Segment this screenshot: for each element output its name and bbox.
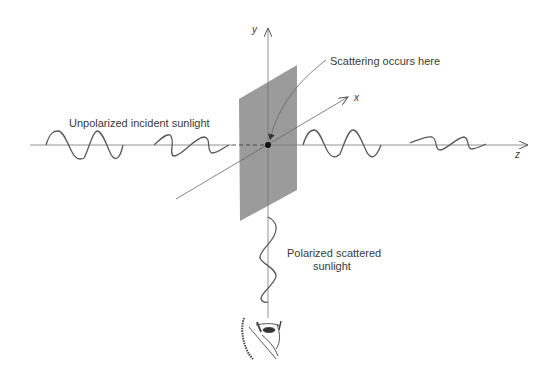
transmitted-wave-horizontal [410,137,486,150]
scattered-label-line2: sunlight [313,260,351,272]
x-axis-label: x [353,92,360,103]
scattered-label-line1: Polarized scattered [287,247,381,259]
scattering-label: Scattering occurs here [330,55,440,67]
incident-label: Unpolarized incident sunlight [69,117,210,129]
scattering-point [265,142,271,148]
z-axis-label: z [514,149,520,160]
y-axis-label: y [251,24,258,35]
transmitted-wave-vertical [303,130,381,157]
eye-icon [242,318,281,359]
polarization-diagram: Unpolarized incident sunlight Scattering… [0,0,558,382]
